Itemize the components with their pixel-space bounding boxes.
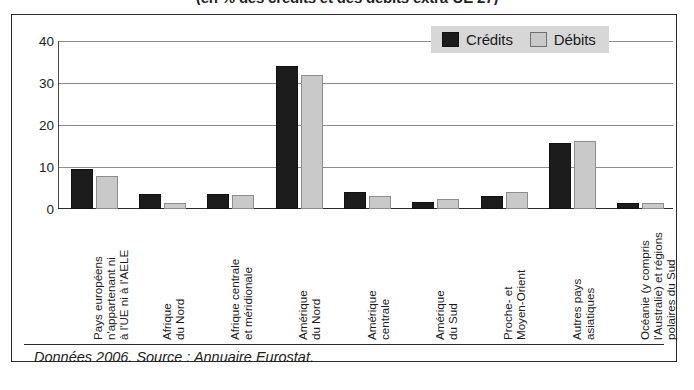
legend-label: Crédits [466,31,513,48]
legend-entry: Débits [530,31,596,48]
x-axis-label: Afrique centraleet méridionale [228,208,254,340]
x-axis-label-line: centrale [378,208,391,340]
source-divider [24,344,664,345]
plot-area: 010203040 [45,41,673,209]
x-axis-label-line: à l'UE ni à l'AELE [117,208,130,340]
x-axis-label-line: Amérique [296,208,309,340]
x-axis-label-line: Autres pays [570,208,583,340]
x-axis-label-line: Amérique [433,208,446,340]
bar-group [536,41,604,209]
x-axis-label: Proche- etMoyen-Orient [501,208,527,340]
x-axis-label: Autres paysasiatiques [570,208,596,340]
x-axis-label-line: du Sud [446,208,459,340]
bar-débits [232,195,254,209]
bar-group [331,41,399,209]
bar-débits [96,176,118,209]
x-axis-label-line: Pays européens [91,208,104,340]
legend-label: Débits [554,31,596,48]
bar-débits [506,192,528,209]
bar-crédits [617,203,639,209]
bar-group [468,41,536,209]
credits-swatch-icon [442,32,459,47]
chart-legend: CréditsDébits [431,26,609,53]
x-axis-label: Amériquedu Sud [433,208,459,340]
x-axis-label-line: Proche- et [501,208,514,340]
y-tick-label-30: 30 [39,76,54,91]
x-axis-label-line: du Nord [173,208,186,340]
x-axis-label-line: Amérique [365,208,378,340]
x-axis-label-line: et méridionale [241,208,254,340]
bars-layer [58,41,673,209]
bar-crédits [207,194,229,209]
y-tick-label-10: 10 [39,160,54,175]
bar-crédits [549,143,571,209]
x-axis-label-line: Afrique [160,208,173,340]
debits-swatch-icon [530,32,547,47]
figure-title: (en % des crédits et des débits extra-UE… [0,0,694,5]
x-axis-label: Océanie (y comprisl'Australie) et région… [638,208,677,340]
bar-crédits [344,192,366,209]
chart-frame: 010203040 CréditsDébits Pays européensn'… [11,14,677,362]
y-tick-label-20: 20 [39,118,54,133]
x-axis-label: Pays européensn'appartenant nià l'UE ni … [91,208,130,340]
bar-débits [574,141,596,209]
legend-entry: Crédits [442,31,513,48]
x-axis-label: Afriquedu Nord [160,208,186,340]
source-caption: Données 2006. Source : Annuaire Eurostat… [34,349,314,365]
bar-crédits [71,169,93,209]
x-axis-label: Amériquedu Nord [296,208,322,340]
bar-group [126,41,194,209]
x-axis-label-line: Moyen-Orient [514,208,527,340]
bar-crédits [139,194,161,209]
x-axis-label-line: Afrique centrale [228,208,241,340]
bar-crédits [276,66,298,209]
x-axis-labels: Pays européensn'appartenant nià l'UE ni … [58,211,673,343]
bar-débits [301,75,323,209]
bar-group [195,41,263,209]
bar-group [605,41,673,209]
x-axis-label-line: du Nord [309,208,322,340]
x-axis-label: Amériquecentrale [365,208,391,340]
y-tick-label-0: 0 [46,202,54,217]
x-axis-label-line: l'Australie) et régions [651,208,664,340]
x-axis-label-line: n'appartenant ni [104,208,117,340]
bar-group [263,41,331,209]
y-tick-label-40: 40 [39,34,54,49]
x-axis-label-line: asiatiques [583,208,596,340]
bar-crédits [412,202,434,209]
bar-group [58,41,126,209]
x-axis-label-line: Océanie (y compris [638,208,651,340]
bar-group [400,41,468,209]
bar-crédits [481,196,503,209]
x-axis-label-line: polaires du Sud [664,208,677,340]
